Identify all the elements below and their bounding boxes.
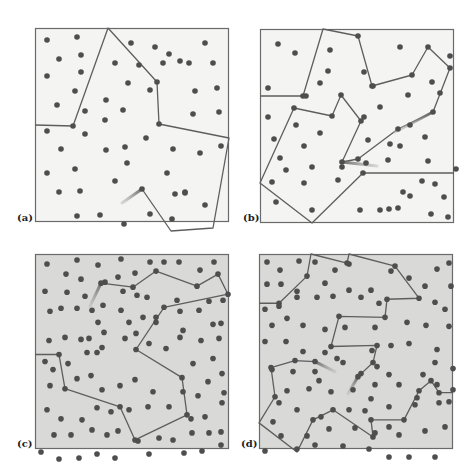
panel-frame — [36, 29, 229, 222]
point — [422, 283, 428, 289]
path-node — [425, 44, 431, 50]
point — [65, 361, 71, 367]
point — [202, 414, 208, 420]
point — [414, 395, 420, 401]
point — [365, 137, 371, 143]
path-node — [360, 170, 366, 176]
point — [377, 207, 383, 213]
point — [386, 372, 392, 378]
point — [180, 389, 186, 395]
point — [174, 297, 180, 303]
point — [216, 336, 222, 342]
point — [276, 400, 282, 406]
point — [377, 104, 383, 110]
point — [177, 308, 183, 314]
point — [327, 47, 333, 53]
path-node — [384, 296, 390, 302]
point — [58, 146, 64, 152]
path-node — [292, 358, 298, 364]
point — [143, 135, 149, 141]
point — [290, 369, 296, 375]
path-node — [374, 343, 380, 349]
point — [442, 306, 448, 312]
point — [160, 60, 166, 66]
point — [406, 454, 412, 460]
dot-field-a — [35, 28, 229, 222]
point — [397, 44, 403, 50]
point — [181, 450, 187, 456]
point — [446, 260, 452, 266]
point — [190, 361, 196, 367]
point — [301, 143, 307, 149]
point — [51, 432, 57, 438]
point — [339, 164, 345, 170]
point — [117, 383, 123, 389]
point — [42, 359, 48, 365]
point — [340, 360, 346, 366]
point — [78, 52, 84, 58]
path-node — [330, 407, 336, 413]
point — [387, 141, 393, 147]
point — [218, 321, 224, 327]
panel-frame — [36, 255, 229, 449]
point — [147, 211, 153, 217]
point — [404, 320, 410, 326]
point — [84, 350, 90, 356]
point — [300, 349, 306, 355]
point — [192, 88, 198, 94]
point — [283, 167, 289, 173]
point — [312, 442, 318, 448]
point — [425, 158, 431, 164]
point — [122, 336, 128, 342]
point — [396, 432, 402, 438]
path-node — [338, 92, 344, 98]
point — [153, 315, 159, 321]
path-node — [225, 291, 231, 297]
point — [150, 389, 156, 395]
point — [397, 143, 403, 149]
point — [78, 276, 84, 282]
point — [406, 275, 412, 281]
dot-field-b — [260, 29, 454, 223]
point — [262, 306, 268, 312]
point — [62, 335, 68, 341]
panel-frame — [260, 255, 453, 449]
point — [47, 308, 53, 314]
point — [121, 221, 127, 227]
path-node — [117, 404, 123, 410]
point — [58, 416, 64, 422]
point — [432, 360, 438, 366]
path-node — [368, 417, 374, 423]
point — [368, 287, 374, 293]
point — [278, 433, 284, 439]
path-node — [382, 315, 388, 321]
point — [144, 294, 150, 300]
dot-field-d — [259, 254, 453, 449]
path-node — [304, 273, 310, 279]
path-node — [336, 314, 342, 320]
point — [44, 128, 50, 134]
point — [407, 122, 413, 128]
point — [301, 180, 307, 186]
point — [77, 188, 83, 194]
point — [182, 189, 188, 195]
point — [197, 267, 203, 273]
point — [132, 270, 138, 276]
point — [163, 346, 169, 352]
point — [284, 316, 290, 322]
point — [94, 350, 100, 356]
point — [176, 259, 182, 265]
point — [100, 302, 106, 308]
point — [376, 300, 382, 306]
point — [386, 206, 392, 212]
dot-field-c — [35, 254, 229, 449]
point — [180, 328, 186, 334]
point — [44, 261, 50, 267]
point — [292, 50, 298, 56]
point — [99, 345, 105, 351]
point — [220, 297, 226, 303]
path-node — [215, 271, 221, 277]
point — [205, 379, 211, 385]
point — [146, 451, 152, 457]
path-node — [436, 390, 442, 396]
